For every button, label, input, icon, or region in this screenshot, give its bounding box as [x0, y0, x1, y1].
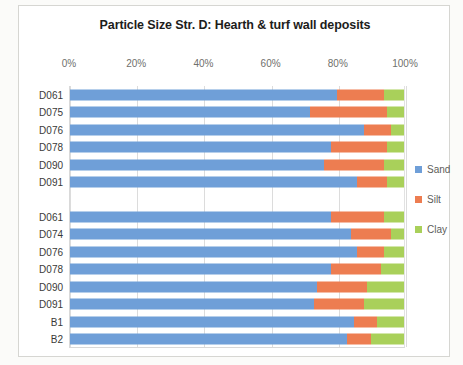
bar-segment-sand — [70, 299, 314, 310]
bar-segment-silt — [331, 142, 388, 153]
bar-segment-sand — [70, 264, 331, 275]
bar-segment-sand — [70, 159, 324, 170]
bar-row: D078 — [70, 138, 404, 155]
legend-item-silt[interactable]: Silt — [415, 184, 463, 214]
legend-label: Clay — [427, 224, 447, 235]
bar-segment-clay — [364, 299, 404, 310]
bar-segment-silt — [331, 264, 381, 275]
bar-segment-clay — [387, 107, 404, 118]
legend-label: Sand — [427, 164, 450, 175]
bar-segment-clay — [384, 159, 404, 170]
bar-segment-clay — [381, 264, 404, 275]
bar-segment-silt — [357, 176, 387, 187]
bar-segment-clay — [391, 124, 404, 135]
bar-row: D061 — [70, 208, 404, 225]
gridline — [406, 86, 407, 347]
bar-segment-clay — [384, 89, 404, 100]
bar-segment-sand — [70, 124, 364, 135]
bar-segment-sand — [70, 89, 337, 100]
legend-item-clay[interactable]: Clay — [415, 214, 463, 244]
scanned-page-background: Particle Size Str. D: Hearth & turf wall… — [0, 0, 463, 365]
x-axis-tick-label: 20% — [126, 58, 146, 69]
bar-row: B1 — [70, 313, 404, 330]
x-axis-tick-label: 60% — [261, 58, 281, 69]
category-label: D091 — [39, 176, 63, 187]
bar-segment-silt — [337, 89, 384, 100]
bar-segment-sand — [70, 176, 357, 187]
stacked-bar — [70, 89, 404, 100]
bar-segment-silt — [324, 159, 384, 170]
stacked-bar — [70, 159, 404, 170]
bar-segment-silt — [317, 281, 367, 292]
stacked-bar — [70, 142, 404, 153]
legend-swatch-icon — [415, 226, 422, 233]
x-axis-tick-label: 100% — [392, 58, 418, 69]
category-label: B2 — [51, 334, 63, 345]
category-label: D078 — [39, 264, 63, 275]
category-label: D076 — [39, 124, 63, 135]
bar-segment-silt — [351, 229, 391, 240]
chart-title: Particle Size Str. D: Hearth & turf wall… — [19, 18, 451, 32]
bar-segment-silt — [357, 246, 384, 257]
bar-row-spacer — [70, 191, 404, 208]
bar-segment-silt — [354, 316, 377, 327]
x-axis-tick-labels: 0%20%40%60%80%100% — [19, 58, 451, 74]
bar-row: D090 — [70, 278, 404, 295]
bar-segment-sand — [70, 334, 347, 345]
bar-segment-silt — [331, 211, 384, 222]
x-axis-tick-label: 0% — [62, 58, 76, 69]
bar-row: D061 — [70, 86, 404, 103]
bar-segment-sand — [70, 211, 331, 222]
bar-segment-sand — [70, 281, 317, 292]
x-axis-tick-label: 40% — [193, 58, 213, 69]
bar-segment-clay — [391, 229, 404, 240]
stacked-bar — [70, 334, 404, 345]
stacked-bar — [70, 281, 404, 292]
bar-segment-clay — [384, 211, 404, 222]
stacked-bar — [70, 124, 404, 135]
category-label: D074 — [39, 229, 63, 240]
bar-row: D091 — [70, 295, 404, 312]
stacked-bar — [70, 229, 404, 240]
chart-container: Particle Size Str. D: Hearth & turf wall… — [18, 5, 450, 357]
bar-segment-clay — [387, 142, 404, 153]
bar-segment-silt — [314, 299, 364, 310]
bar-segment-sand — [70, 107, 310, 118]
bar-row: D090 — [70, 156, 404, 173]
category-label: B1 — [51, 316, 63, 327]
bar-row: D091 — [70, 173, 404, 190]
category-label: D078 — [39, 142, 63, 153]
stacked-bar — [70, 264, 404, 275]
category-label: D075 — [39, 107, 63, 118]
category-label: D061 — [39, 89, 63, 100]
bar-segment-silt — [310, 107, 387, 118]
bar-segment-sand — [70, 316, 354, 327]
bar-rows: D061D075D076D078D090D091D061D074D076D078… — [70, 86, 404, 347]
bar-segment-clay — [367, 281, 404, 292]
bar-segment-silt — [347, 334, 370, 345]
bar-row: D078 — [70, 261, 404, 278]
bar-segment-clay — [377, 316, 404, 327]
chart-legend: SandSiltClay — [415, 154, 463, 244]
bar-row: D076 — [70, 121, 404, 138]
legend-swatch-icon — [415, 166, 422, 173]
bar-segment-sand — [70, 246, 357, 257]
legend-label: Silt — [427, 194, 441, 205]
bar-segment-clay — [387, 176, 404, 187]
stacked-bar — [70, 176, 404, 187]
bar-row: B2 — [70, 330, 404, 347]
bar-segment-clay — [384, 246, 404, 257]
legend-item-sand[interactable]: Sand — [415, 154, 463, 184]
legend-swatch-icon — [415, 196, 422, 203]
category-label: D091 — [39, 299, 63, 310]
category-label: D090 — [39, 281, 63, 292]
bar-row: D075 — [70, 103, 404, 120]
category-label: D061 — [39, 211, 63, 222]
stacked-bar — [70, 316, 404, 327]
bar-segment-sand — [70, 229, 351, 240]
stacked-bar — [70, 107, 404, 118]
stacked-bar — [70, 211, 404, 222]
bar-row: D074 — [70, 226, 404, 243]
category-label: D076 — [39, 246, 63, 257]
stacked-bar — [70, 299, 404, 310]
